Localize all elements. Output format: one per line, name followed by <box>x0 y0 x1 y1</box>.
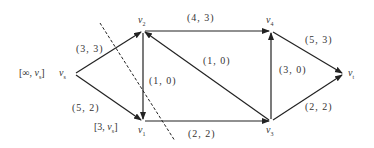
node-v3: v3 <box>266 124 273 137</box>
edge-label-v3-v4: (3, 0) <box>279 64 307 75</box>
edge-v3-vt <box>273 75 342 120</box>
node-vt: vt <box>348 67 354 80</box>
edge-label-v3-vt: (2, 2) <box>305 101 333 112</box>
edge-label-v3-v2: (1, 0) <box>203 55 231 66</box>
node-vs: vs <box>59 67 66 80</box>
node-v1: v1 <box>138 124 145 137</box>
label-tag-v1: [3, vs] <box>94 121 117 134</box>
node-v2: v2 <box>138 14 145 27</box>
edge-label-vs-v2: (3, 3) <box>76 43 104 54</box>
edge-label-v4-vt: (5, 3) <box>305 34 333 45</box>
edge-label-vs-v1: (5, 2) <box>72 102 100 113</box>
node-v4: v4 <box>266 14 273 27</box>
edge-label-v2-v4: (4, 3) <box>187 12 215 23</box>
edge-label-v2-v1: (1, 0) <box>149 75 177 86</box>
label-tag-vs: [∞, vs] <box>19 67 45 80</box>
edge-label-v1-v3: (2, 2) <box>188 128 216 139</box>
edge-vs-v1 <box>76 75 141 120</box>
